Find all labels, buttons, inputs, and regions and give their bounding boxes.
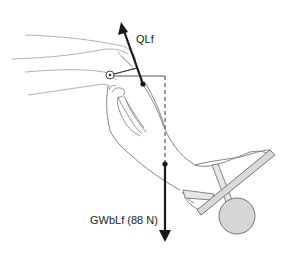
leg-outline <box>107 80 270 203</box>
quadriceps-force-label: QLf <box>136 34 154 45</box>
bone-sketch <box>109 85 146 136</box>
thigh-outline <box>12 35 136 95</box>
gravity-weight-force-arrow <box>159 161 171 242</box>
gravity-weight-force-label: GWbLf (88 N) <box>90 215 158 226</box>
knee-axis-icon <box>106 71 114 79</box>
quadriceps-moment-arm <box>114 68 137 74</box>
weight-disc <box>219 198 255 234</box>
quadriceps-force-arrow <box>118 22 146 87</box>
